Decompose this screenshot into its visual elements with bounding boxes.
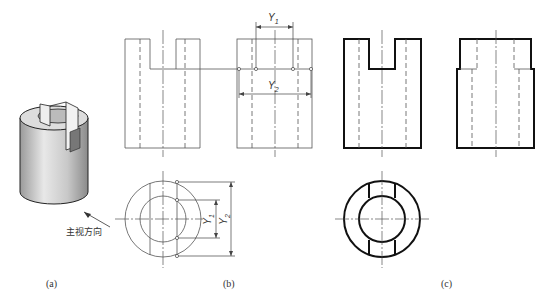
caption-b: (b) xyxy=(223,278,235,289)
caption-a: (a) xyxy=(46,278,57,289)
panel-c-top-view xyxy=(335,171,430,268)
drawing-canvas xyxy=(0,0,550,301)
view-direction-label: 主视方向 xyxy=(66,225,102,238)
dimension-y2-top: Y2 xyxy=(268,80,279,93)
isometric-cylinder xyxy=(20,102,110,227)
dimension-y1-top: Y1 xyxy=(268,12,279,25)
caption-c: (c) xyxy=(441,278,452,289)
panel-b-front-view xyxy=(125,30,312,157)
panel-c-side-view xyxy=(457,30,534,157)
dimension-y2-plan: Y2 xyxy=(218,214,231,225)
panel-c-front-view xyxy=(344,30,421,157)
dimension-y1-plan: Y1 xyxy=(202,214,215,225)
